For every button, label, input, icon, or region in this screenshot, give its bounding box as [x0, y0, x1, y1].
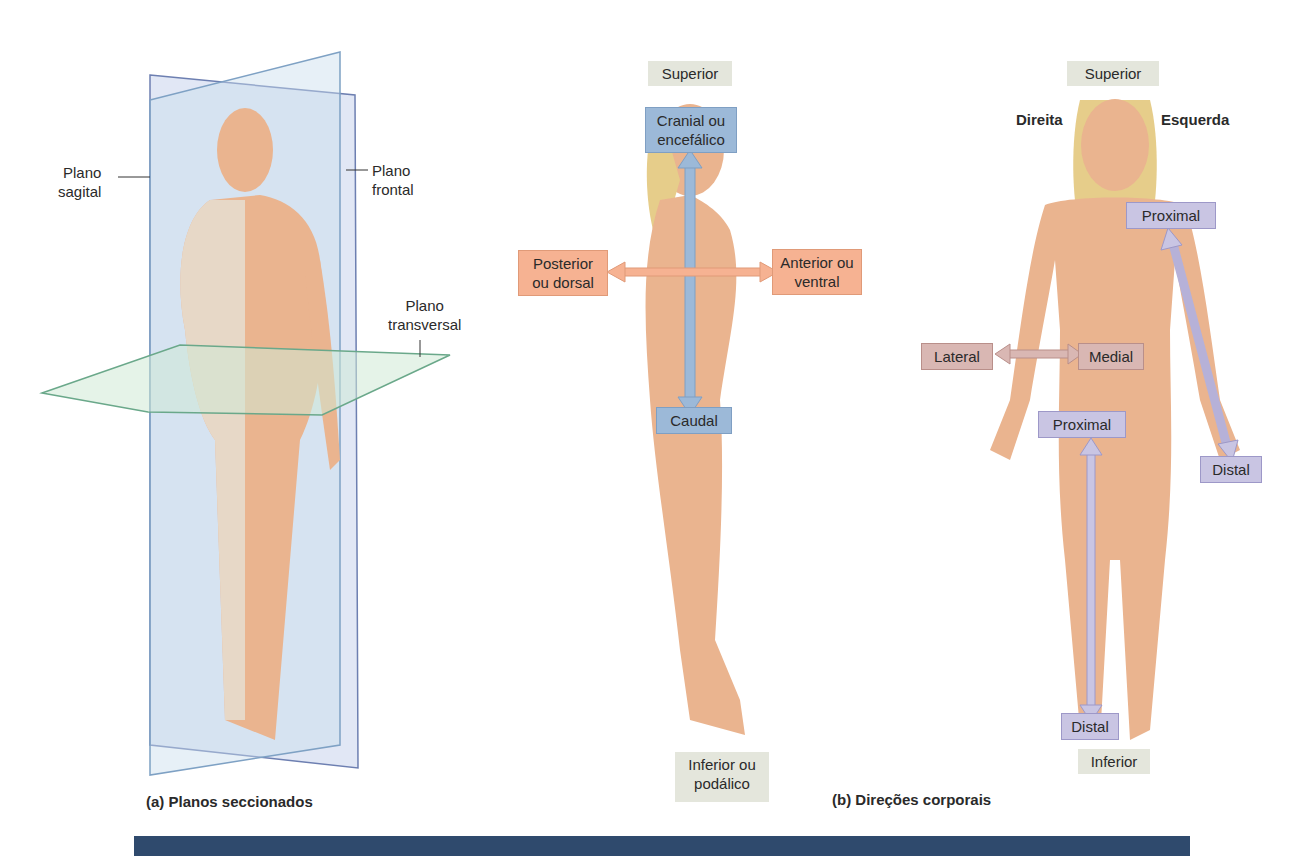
label-direita: Direita [1016, 110, 1063, 129]
label-esquerda: Esquerda [1161, 110, 1229, 129]
label-inferior-podalico: Inferior ou podálico [675, 752, 769, 802]
label-plano-frontal: Plano frontal [372, 161, 414, 199]
caption-direcoes-corporais: (b) Direções corporais [832, 791, 991, 808]
label-proximal-arm: Proximal [1126, 202, 1216, 229]
bottom-banner-bar [134, 836, 1190, 856]
label-cranial: Cranial ou encefálico [645, 107, 737, 153]
label-superior-front: Superior [1067, 61, 1159, 86]
label-lateral: Lateral [921, 343, 993, 370]
label-medial: Medial [1078, 343, 1144, 370]
label-caudal: Caudal [656, 407, 732, 434]
label-plano-sagital: Plano sagital [58, 163, 101, 201]
label-anterior: Anterior ou ventral [772, 249, 862, 295]
label-proximal-leg: Proximal [1038, 411, 1126, 438]
label-plano-transversal: Plano transversal [388, 296, 461, 334]
label-distal-leg: Distal [1061, 713, 1119, 740]
label-posterior: Posterior ou dorsal [518, 250, 608, 296]
caption-planos-seccionados: (a) Planos seccionados [146, 793, 313, 810]
label-superior-side: Superior [648, 61, 732, 86]
label-inferior-front: Inferior [1078, 749, 1150, 774]
label-distal-arm: Distal [1200, 456, 1262, 483]
